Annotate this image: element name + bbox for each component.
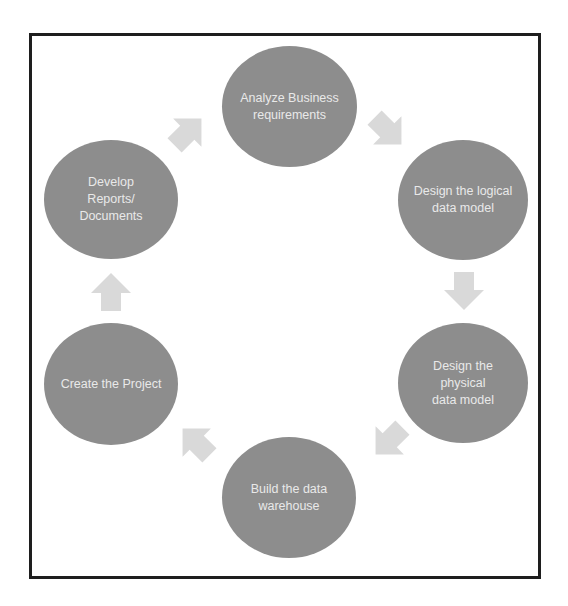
arrow-down-left-icon (361, 413, 416, 468)
arrow-down-icon (444, 272, 484, 310)
node-develop-reports-documents: Develop Reports/ Documents (44, 140, 178, 259)
arrow-up-right-icon (160, 104, 215, 159)
node-label: Design the physical data model (428, 358, 498, 409)
arrow-down-right-icon (360, 103, 415, 158)
node-label: Analyze Business requirements (236, 90, 343, 124)
arrow-up-icon (91, 273, 131, 311)
node-analyze-business-requirements: Analyze Business requirements (222, 46, 357, 167)
node-label: Design the logical data model (410, 183, 517, 217)
node-create-the-project: Create the Project (44, 323, 178, 445)
node-label: Create the Project (57, 376, 166, 393)
node-build-data-warehouse: Build the data warehouse (222, 437, 356, 558)
node-label: Build the data warehouse (247, 481, 331, 515)
node-design-physical-data-model: Design the physical data model (398, 323, 528, 443)
node-label: Develop Reports/ Documents (75, 174, 146, 225)
arrow-up-left-icon (168, 414, 223, 469)
node-design-logical-data-model: Design the logical data model (398, 140, 528, 260)
